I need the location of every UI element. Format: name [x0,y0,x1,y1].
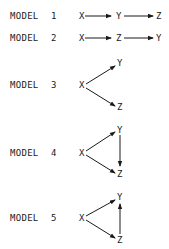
node-y: Y [116,12,121,21]
node-y: Y [156,34,161,43]
node-z: Z [117,170,122,179]
arrow-x-to-z-model5 [86,220,115,238]
model-number: 1 [51,11,56,21]
model-number: 5 [51,213,56,223]
node-y: Y [117,59,122,68]
node-y: Y [117,193,122,202]
model-label: MODEL [10,213,39,223]
node-z: Z [116,34,121,43]
model-number: 3 [51,80,56,90]
model-label: MODEL [10,148,39,158]
node-x: X [79,12,84,21]
node-y: Y [117,126,122,135]
model-label: MODEL [10,80,39,90]
node-x: X [79,34,84,43]
node-x: X [79,81,84,90]
arrow-x-to-y-model5 [86,200,115,216]
node-z: Z [117,103,122,112]
arrow-x-to-y-model4 [86,132,115,151]
model-label: MODEL [10,33,39,43]
arrow-x-to-y-model3 [86,66,115,84]
model-label: MODEL [10,11,39,21]
node-x: X [79,149,84,158]
model-number: 4 [51,148,56,158]
node-x: X [79,214,84,223]
node-z: Z [117,236,122,245]
node-z: Z [156,12,161,21]
model-number: 2 [51,33,56,43]
arrow-x-to-z-model3 [86,88,115,106]
arrow-x-to-z-model4 [86,155,115,173]
